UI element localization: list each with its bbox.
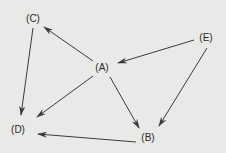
edge-e-to-a-arrow-icon — [118, 40, 194, 63]
graph-canvas: (A) (B) (C) (D) (E) — [0, 0, 226, 153]
edge-e-to-b-arrow-icon — [159, 48, 207, 126]
edge-c-to-d-arrow-icon — [21, 28, 33, 115]
node-c-label: (C) — [26, 14, 40, 24]
edge-a-to-d-arrow-icon — [37, 76, 93, 117]
node-b-label: (B) — [141, 133, 154, 143]
edge-a-to-b-arrow-icon — [110, 77, 139, 128]
edge-b-to-d-arrow-icon — [38, 134, 136, 142]
node-a-label: (A) — [95, 63, 108, 73]
node-d-label: (D) — [11, 125, 25, 135]
node-e-label: (E) — [199, 33, 212, 43]
edge-a-to-c-arrow-icon — [44, 27, 93, 61]
